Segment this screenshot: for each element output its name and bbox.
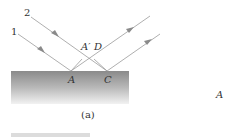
ray-1-label: 1 [11,27,17,37]
ray-lines [0,0,230,137]
figure-caption: (a) [81,110,95,120]
point-a-prime-label: A′ [81,42,91,52]
point-a-label: A [68,75,75,85]
wavefront-a-aprime [71,59,82,71]
wavefront-c-d [94,59,107,71]
reflection-diagram: 2 1 A′ D A C (a) A [0,0,230,137]
point-d-label: D [94,42,102,52]
reflected-ray-2 [107,34,160,71]
arrow-icon [37,46,45,53]
ray-2-label: 2 [24,8,30,18]
point-c-label: C [104,75,112,85]
side-label: A [216,90,223,100]
gray-bar [11,133,90,137]
arrow-icon [51,30,59,37]
